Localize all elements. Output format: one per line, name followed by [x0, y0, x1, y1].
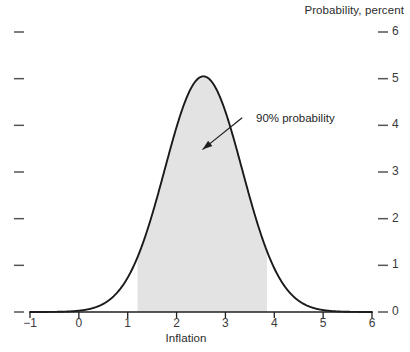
plot-area	[0, 0, 410, 352]
x-axis-tick-label: 5	[308, 316, 338, 330]
y-axis-tick-label: 2	[392, 211, 399, 225]
x-axis-tick-label: 3	[210, 316, 240, 330]
x-axis-tick-label: 6	[357, 316, 387, 330]
inflation-probability-chart: Probability, percent 90% probability 654…	[0, 0, 410, 352]
y-axis-tick-label: 6	[392, 24, 399, 38]
y-axis-tick-label: 5	[392, 71, 399, 85]
y-axis-tick-label: 0	[392, 304, 399, 318]
x-axis-label: Inflation	[0, 332, 372, 344]
y-axis-tick-label: 3	[392, 164, 399, 178]
x-axis-tick-label: 1	[113, 316, 143, 330]
annotation-label-90-percent-probability: 90% probability	[256, 112, 335, 124]
x-axis-tick-label: −1	[15, 316, 45, 330]
x-axis-tick-label: 2	[162, 316, 192, 330]
x-axis-tick-label: 0	[64, 316, 94, 330]
shaded-region	[137, 76, 266, 312]
y-axis-tick-label: 1	[392, 257, 399, 271]
y-axis-tick-label: 4	[392, 117, 399, 131]
x-axis-tick-label: 4	[259, 316, 289, 330]
